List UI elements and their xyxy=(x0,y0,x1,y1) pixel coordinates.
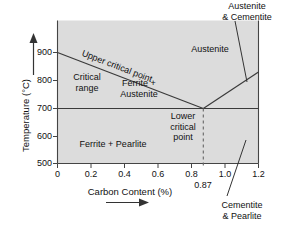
callout-lower-critical-line2: critical xyxy=(163,122,203,133)
callout-austenite-cementite-line1: Austenite xyxy=(205,1,289,12)
x-tick-label-0-6: 0.6 xyxy=(145,169,171,179)
callout-cementite-pearlite-line1: Cementite xyxy=(199,200,285,211)
y-tick-label-700: 700 xyxy=(28,103,52,113)
region-label-austenite: Austenite xyxy=(180,44,240,55)
y-tick-marks xyxy=(53,53,58,164)
y-axis-title: Temperature (°C) xyxy=(20,79,31,152)
x-tick-label-1-0: 1.0 xyxy=(212,169,238,179)
callout-austenite-cementite-line2: & Cementite xyxy=(205,12,289,23)
x-axis-arrow-icon xyxy=(106,199,149,207)
x-axis-title: Carbon Content (%) xyxy=(57,186,203,197)
x-tick-label-0-2: 0.2 xyxy=(78,169,104,179)
x-tick-label-0-8: 0.8 xyxy=(179,169,205,179)
y-tick-label-800: 800 xyxy=(28,75,52,85)
x-tick-label-1-2: 1.2 xyxy=(246,169,272,179)
phase-diagram-figure: 900 800 700 600 500 0 0.2 0.4 0.6 0.8 1.… xyxy=(0,0,290,230)
y-tick-label-500: 500 xyxy=(28,158,52,168)
y-tick-label-900: 900 xyxy=(28,47,52,57)
y-tick-label-600: 600 xyxy=(28,131,52,141)
callout-cementite-pearlite-line2: & Pearlite xyxy=(199,211,285,222)
x-tick-marks xyxy=(58,164,259,169)
region-label-critical-range-line1: Critical xyxy=(62,72,112,83)
region-label-ferrite-austenite-line2: Austenite xyxy=(110,89,168,100)
callout-lower-critical-line3: point xyxy=(163,132,203,143)
x-tick-label-0-4: 0.4 xyxy=(112,169,138,179)
region-label-ferrite-pearlite: Ferrite + Pearlite xyxy=(58,139,168,150)
callout-lower-critical-line1: Lower xyxy=(163,111,203,122)
x-tick-label-0: 0 xyxy=(48,169,68,179)
region-label-critical-range-line2: range xyxy=(62,83,112,94)
